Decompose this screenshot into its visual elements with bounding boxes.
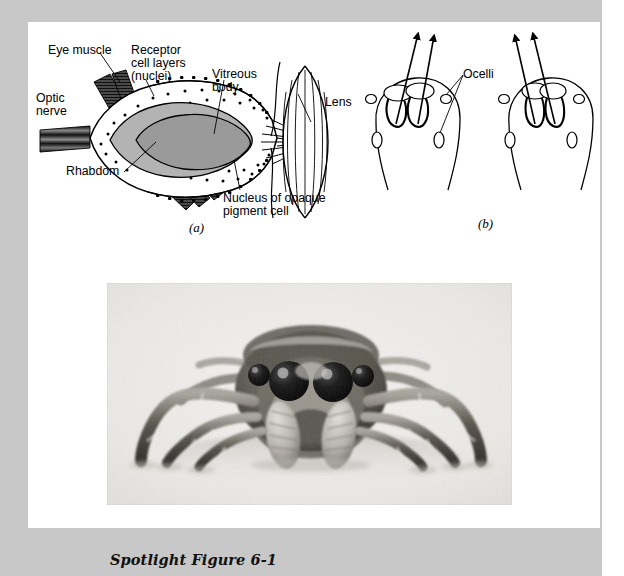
label-optic-nerve-line2: nerve <box>36 105 67 118</box>
panel-b-letter: (b) <box>478 216 493 232</box>
label-nucleus-opaque-pigment-line2: pigment cell <box>223 205 289 218</box>
ocelli-diagram-converged <box>499 34 594 190</box>
panel-b-ocelli-drawing <box>360 28 610 213</box>
label-eye-muscle: Eye muscle <box>48 44 112 57</box>
optic-nerve-bundle <box>40 126 90 152</box>
label-ocelli: Ocelli <box>463 68 494 81</box>
label-vitreous-body-line2: body <box>212 81 239 94</box>
label-receptor-cell-layers-line3: (nuclei) <box>131 70 171 83</box>
jumping-spider-photograph <box>107 283 512 505</box>
label-rhabdom: Rhabdom <box>66 165 119 178</box>
spider-photo-artwork <box>107 283 512 505</box>
label-lens: Lens <box>325 96 352 109</box>
panel-a-letter: (a) <box>189 220 204 236</box>
page-root: Eye muscle Receptor cell layers (nuclei)… <box>0 0 624 576</box>
ocelli-diagram-diverged <box>366 34 464 190</box>
figure-caption: Spotlight Figure 6-1 <box>110 551 277 568</box>
